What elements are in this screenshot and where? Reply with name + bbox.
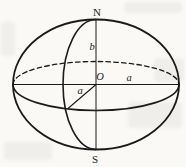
center-label: O [96, 71, 104, 82]
semi-major-axis-front-label: a [77, 85, 82, 96]
semi-major-axis-right-label: a [126, 72, 131, 83]
semi-minor-axis-label: b [89, 41, 94, 52]
south-pole-label: S [92, 153, 98, 165]
north-pole-label: N [93, 6, 101, 18]
ellipsoid-figure: N S O a a b [0, 0, 186, 167]
ellipsoid-diagram: N S O a a b [0, 0, 186, 167]
